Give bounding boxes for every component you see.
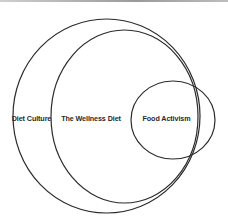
food-activism-label: Food Activism (143, 114, 191, 123)
venn-svg: Diet Culture The Wellness Diet Food Acti… (0, 0, 228, 220)
wellness-diet-label: The Wellness Diet (61, 114, 121, 123)
diet-culture-label: Diet Culture (12, 114, 52, 123)
venn-diagram: Diet Culture The Wellness Diet Food Acti… (0, 0, 228, 220)
